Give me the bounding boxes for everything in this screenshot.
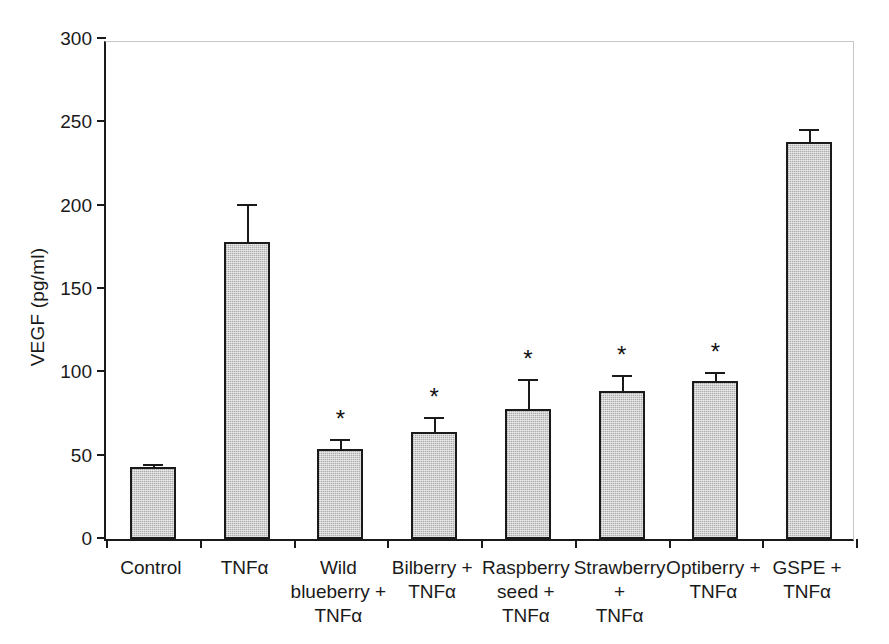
significance-marker-3: *: [429, 385, 438, 409]
x-axis-tick: [294, 539, 296, 548]
y-axis-label: VEGF (pg/ml): [27, 207, 49, 407]
y-axis-tick-label: 300: [60, 28, 92, 50]
error-bar-5: [622, 377, 624, 390]
error-bar-cap-5: [612, 375, 632, 377]
x-axis-label-line: Optiberry +: [661, 556, 767, 580]
x-axis-label-line: Control: [98, 556, 204, 580]
significance-marker-4: *: [523, 347, 532, 371]
y-axis-tick: [97, 204, 106, 206]
significance-marker-5: *: [617, 343, 626, 367]
y-axis-tick: [97, 370, 106, 372]
y-axis-tick: [97, 37, 106, 39]
x-axis-label-line: blueberry +: [286, 580, 392, 604]
error-bar-cap-3: [424, 417, 444, 419]
bar-3: [411, 432, 457, 539]
x-axis-label-line: Strawberry +: [567, 556, 673, 604]
error-bar-cap-7: [799, 129, 819, 131]
error-bar-6: [715, 374, 717, 381]
bar-0: [130, 467, 176, 539]
y-axis-tick: [97, 537, 106, 539]
x-axis-label-6: Optiberry +TNFα: [661, 556, 767, 604]
y-axis-tick-label: 50: [71, 445, 92, 467]
x-axis-tick: [200, 539, 202, 548]
error-bar-3: [434, 419, 436, 432]
x-axis-label-line: TNFα: [379, 580, 485, 604]
x-axis-tick: [669, 539, 671, 548]
x-axis-tick: [575, 539, 577, 548]
bar-4: [505, 409, 551, 539]
x-axis-label-7: GSPE +TNFα: [754, 556, 860, 604]
y-axis-tick: [97, 454, 106, 456]
x-axis-label-line: Wild: [286, 556, 392, 580]
bar-2: [317, 449, 363, 539]
x-axis-tick: [106, 539, 108, 548]
x-axis-tick: [387, 539, 389, 548]
x-axis-tick: [762, 539, 764, 548]
x-axis-label-line: seed +: [473, 580, 579, 604]
significance-marker-2: *: [336, 407, 345, 431]
x-axis-label-5: Strawberry +TNFα: [567, 556, 673, 628]
y-axis-tick: [97, 287, 106, 289]
y-axis-tick-label: 100: [60, 361, 92, 383]
bar-1: [224, 242, 270, 539]
x-axis-label-line: TNFα: [567, 604, 673, 628]
error-bar-0: [153, 466, 155, 468]
error-bar-cap-2: [330, 439, 350, 441]
y-axis-tick-label: 0: [81, 528, 92, 550]
error-bar-7: [809, 131, 811, 143]
x-axis-label-line: GSPE +: [754, 556, 860, 580]
x-axis-label-line: Raspberry: [473, 556, 579, 580]
error-bar-cap-4: [518, 379, 538, 381]
x-axis-label-line: TNFα: [661, 580, 767, 604]
x-axis-tick: [856, 539, 858, 548]
y-axis-tick-label: 200: [60, 195, 92, 217]
x-axis-label-1: TNFα: [192, 556, 298, 580]
x-axis-label-line: Bilberry +: [379, 556, 485, 580]
error-bar-cap-6: [705, 372, 725, 374]
bar-5: [599, 391, 645, 539]
error-bar-1: [247, 206, 249, 243]
x-axis-label-line: TNFα: [192, 556, 298, 580]
x-axis-label-line: TNFα: [286, 604, 392, 628]
y-axis-tick-label: 150: [60, 278, 92, 300]
error-bar-cap-1: [237, 204, 257, 206]
x-axis-label-line: TNFα: [754, 580, 860, 604]
vegf-bar-chart: VEGF (pg/ml) 050100150200250300***** Con…: [0, 0, 889, 644]
x-axis-label-line: TNFα: [473, 604, 579, 628]
error-bar-cap-0: [143, 464, 163, 466]
bar-7: [786, 142, 832, 539]
x-axis-label-2: Wildblueberry +TNFα: [286, 556, 392, 628]
x-axis-label-3: Bilberry +TNFα: [379, 556, 485, 604]
error-bar-2: [340, 441, 342, 449]
x-axis-label-0: Control: [98, 556, 204, 580]
x-axis-label-4: Raspberryseed +TNFα: [473, 556, 579, 628]
bar-6: [692, 381, 738, 539]
y-axis-tick-label: 250: [60, 111, 92, 133]
error-bar-4: [528, 381, 530, 409]
y-axis-tick: [97, 120, 106, 122]
plot-area: 050100150200250300*****: [104, 41, 854, 541]
x-axis-tick: [481, 539, 483, 548]
significance-marker-6: *: [711, 340, 720, 364]
